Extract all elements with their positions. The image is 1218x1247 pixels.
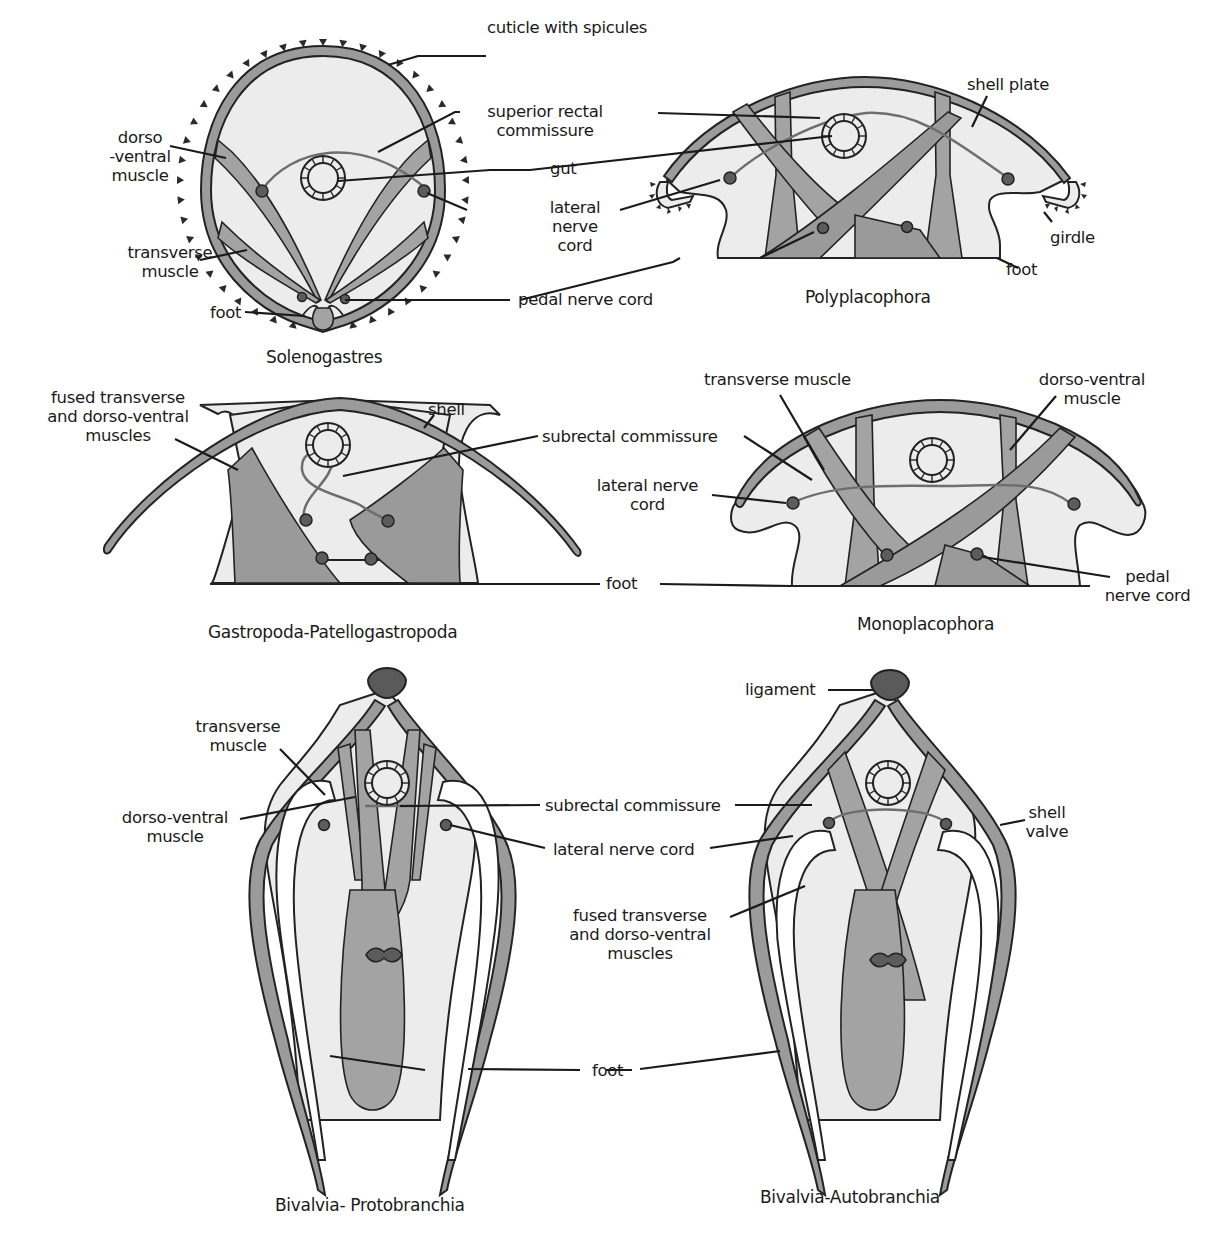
label-transverse-muscle: transverse muscle [704,370,851,389]
label-dorso-ventral-muscle: dorso-ventral muscle [1032,370,1152,408]
label-foot: foot [606,574,637,593]
gut-icon [866,761,910,805]
label-shell-plate: shell plate [967,75,1049,94]
label-pedal-nerve-cord: pedal nerve cord [518,290,653,309]
lateral-nerve-cord-left [724,172,736,184]
solenogastres-diagram [177,39,469,332]
label-dorso-ventral-muscle: dorso-ventral muscle [110,808,240,846]
label-girdle: girdle [1050,228,1095,247]
label-line: commissure [460,121,630,140]
label-line: lateral [545,198,605,217]
pedal-nerve-cord-right [902,222,913,233]
label-line: -ventral [105,147,175,166]
label-foot: foot [210,303,241,322]
label-foot: foot [592,1061,623,1080]
label-line: superior rectal [460,102,630,121]
lateral-nerve-cord-left [256,185,268,197]
pedal-nerve-cord-left [298,293,307,302]
label-line: muscles [550,944,730,963]
label-lateral-nerve-cord: lateral nerve cord [553,840,694,859]
gut-icon [365,761,409,805]
bivalvia-autobranchia-diagram [749,670,1015,1195]
label-line: muscles [28,426,208,445]
label-line: cord [590,495,705,514]
label-line: and dorso-ventral [28,407,208,426]
monoplacophora-body [731,403,1145,586]
label-fused-muscles: fused transverse and dorso-ventral muscl… [28,388,208,445]
label-line: dorso-ventral [110,808,240,827]
label-transverse-muscle: transverse muscle [188,717,288,755]
label-pedal-nerve-cord: pedal nerve cord [1100,567,1195,605]
label-ligament: ligament [745,680,816,699]
label-line: muscle [105,166,175,185]
label-fused-muscles: fused transverse and dorso-ventral muscl… [550,906,730,963]
title-bivalvia-protobranchia: Bivalvia- Protobranchia [275,1195,465,1215]
pedal-nerve-cord-right [971,548,983,560]
label-lateral-nerve-cord: lateral nerve cord [545,198,605,255]
mollusc-cross-sections-diagram [0,0,1218,1247]
label-lateral-nerve-cord: lateral nerve cord [590,476,705,514]
title-solenogastres: Solenogastres [266,347,382,367]
label-subrectal-commissure: subrectal commissure [545,796,721,815]
polyplacophora-diagram [649,77,1087,258]
pedal-nerve-cord-left [316,552,328,564]
label-line: fused transverse [550,906,730,925]
label-dorso-ventral-muscle: dorso -ventral muscle [105,128,175,185]
label-subrectal-commissure: subrectal commissure [542,427,718,446]
label-cuticle-with-spicules: cuticle with spicules [487,18,647,37]
foot [841,890,905,1110]
foot [313,308,334,330]
title-monoplacophora: Monoplacophora [857,614,994,634]
title-gastropoda-patellogastropoda: Gastropoda-Patellogastropoda [208,622,457,642]
title-bivalvia-autobranchia: Bivalvia-Autobranchia [760,1187,940,1207]
label-line: muscle [1032,389,1152,408]
label-line: muscle [188,736,288,755]
label-line: shell [1022,803,1072,822]
lateral-nerve-cord-right [382,515,394,527]
label-shell-valve: shell valve [1022,803,1072,841]
lateral-nerve-cord-left [824,818,835,829]
lateral-nerve-cord-right [941,819,952,830]
lateral-nerve-cord-left [300,514,312,526]
label-line: fused transverse [28,388,208,407]
label-foot: foot [1006,260,1037,279]
monoplacophora-diagram [731,400,1145,586]
label-line: nerve [545,217,605,236]
label-shell: shell [428,400,465,419]
gut-icon [301,156,345,200]
label-line: muscle [110,827,240,846]
lateral-nerve-cord-right [441,820,452,831]
label-line: dorso-ventral [1032,370,1152,389]
pedal-nerve-cord-right [365,553,377,565]
pedal-nerve-cord-left [881,549,893,561]
lateral-nerve-cord-left [787,497,799,509]
label-line: valve [1022,822,1072,841]
label-gut: gut [550,159,577,178]
label-line: lateral nerve [590,476,705,495]
lateral-nerve-cord-left [319,820,330,831]
lateral-nerve-cord-right [1002,173,1014,185]
lateral-nerve-cord-right [1068,498,1080,510]
label-line: transverse [188,717,288,736]
label-line: and dorso-ventral [550,925,730,944]
label-transverse-muscle: transverse muscle [120,243,220,281]
label-line: transverse [120,243,220,262]
title-polyplacophora: Polyplacophora [805,287,931,307]
label-line: cord [545,236,605,255]
lateral-nerve-cord-right [418,185,430,197]
bivalvia-protobranchia-diagram [249,668,515,1195]
foot [341,890,405,1110]
label-line: dorso [105,128,175,147]
label-superior-rectal-commissure: superior rectal commissure [460,102,630,140]
label-line: muscle [120,262,220,281]
pedal-nerve-cord-left [818,223,829,234]
gut-icon [306,423,350,467]
gut-icon [910,438,954,482]
label-line: pedal [1100,567,1195,586]
label-line: nerve cord [1100,586,1195,605]
